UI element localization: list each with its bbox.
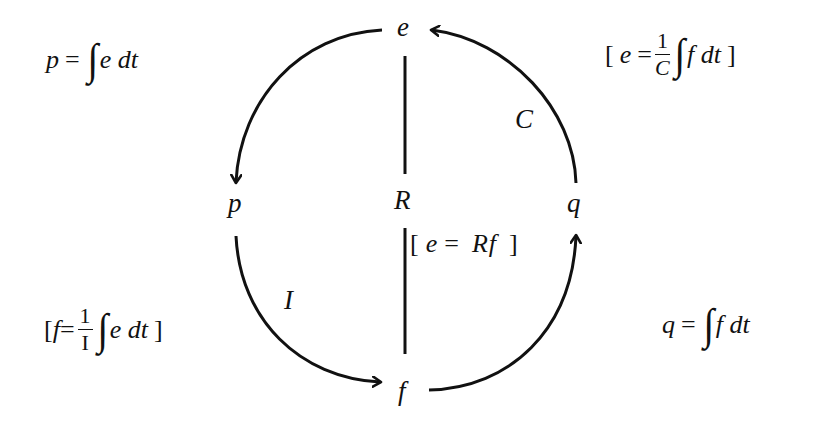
fraction-denominator: I [81,330,88,354]
eq-sign: = [65,47,80,73]
equation-inductor: [ f = 1 I ∫ e dt ] [44,305,163,354]
arrow-f-to-q [429,236,576,390]
equation-resistor: [ e = Rf ] [410,231,519,257]
integral-icon: ∫ [674,33,685,77]
fraction: 1 C [655,30,670,79]
equation-displacement: q = ∫ f dt [662,303,750,347]
integral-icon: ∫ [703,303,714,347]
bracket-close: ] [154,317,163,343]
eq-body: f dt [687,42,721,68]
label-I: I [284,287,293,314]
equation-momentum: p = ∫ e dt [46,38,138,82]
bracket-close: ] [727,42,736,68]
node-R: R [394,187,411,214]
node-f: f [398,378,406,405]
integral-icon: ∫ [87,38,98,82]
label-C: C [515,106,533,133]
fraction-numerator: 1 [655,30,670,55]
eq-lhs: q [662,312,675,338]
eq-body: e dt [100,47,138,73]
bracket-open: [ [410,231,420,257]
equation-capacitor: [ e = 1 C ∫ f dt ] [605,30,736,79]
eq-lhs: e [620,42,632,68]
eq-lhs: p [46,47,59,73]
eq-body: e dt [110,317,148,343]
bracket-open: [ [605,42,614,68]
arrow-q-to-e [432,30,576,183]
eq-sign: = [60,317,75,343]
integral-icon: ∫ [97,308,108,352]
arrow-e-to-p [236,30,382,182]
bracket-close: ] [509,231,519,257]
node-q: q [567,190,581,217]
eq-body: f dt [716,312,750,338]
arrow-p-to-f [236,236,380,382]
fraction: 1 I [78,305,93,354]
eq-rhs: Rf [472,231,497,257]
eq-lhs: f [53,317,60,343]
eq-lhs: e [426,231,439,257]
eq-sign: = [444,231,460,257]
node-e: e [397,14,409,41]
eq-sign: = [637,42,652,68]
node-p: p [228,190,242,217]
fraction-numerator: 1 [78,305,93,330]
eq-sign: = [681,312,696,338]
fraction-denominator: C [655,55,670,79]
bracket-open: [ [44,317,53,343]
